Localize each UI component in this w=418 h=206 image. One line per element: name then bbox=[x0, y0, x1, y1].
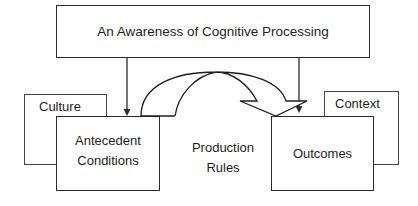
production-rules-curved-arrow bbox=[141, 72, 307, 116]
arrowhead-icon bbox=[124, 109, 131, 116]
arrow-to-antecedent bbox=[124, 58, 131, 116]
connector-layer bbox=[0, 0, 418, 206]
arrowhead-icon bbox=[296, 106, 303, 113]
